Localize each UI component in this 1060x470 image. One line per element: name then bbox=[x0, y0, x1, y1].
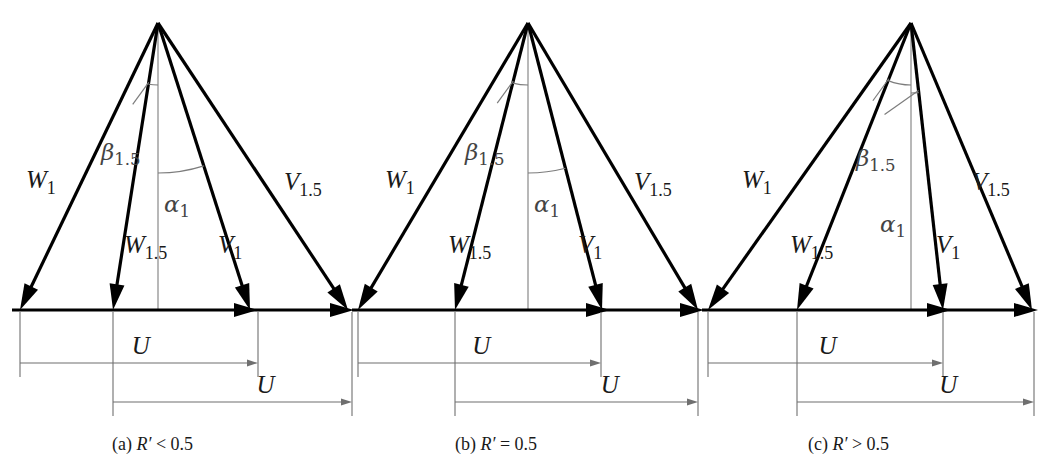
label-W15: W1.5 bbox=[448, 231, 491, 263]
caption-relation: = bbox=[495, 434, 514, 454]
label-V15: V1.5 bbox=[634, 168, 672, 200]
label-V1: V1 bbox=[578, 231, 602, 263]
vector-W1-arrowhead bbox=[20, 283, 38, 310]
caption-prefix: (c) bbox=[808, 434, 832, 454]
angle-arc-beta15 bbox=[888, 81, 911, 85]
baseline-arrowhead-end bbox=[330, 303, 354, 317]
panel-caption-b: (b) R′ = 0.5 bbox=[455, 434, 537, 455]
label-alpha1: α1 bbox=[880, 211, 906, 241]
angle-arc-beta15 bbox=[148, 84, 158, 85]
label-beta15: β1.5 bbox=[855, 145, 896, 175]
label-V15: V1.5 bbox=[972, 168, 1010, 200]
dim-label-top: U bbox=[818, 332, 838, 359]
caption-symbol: R′ bbox=[136, 434, 151, 454]
vector-V15 bbox=[158, 23, 339, 297]
dim-arrowhead-top bbox=[247, 360, 258, 367]
caption-relation: < bbox=[151, 434, 170, 454]
caption-relation: > bbox=[847, 434, 866, 454]
label-W1: W1 bbox=[26, 166, 56, 198]
caption-symbol: R′ bbox=[481, 434, 496, 454]
dim-arrowhead-top bbox=[590, 360, 601, 367]
angle-arc-alpha1 bbox=[158, 166, 204, 173]
panel-b: UUW1W1.5V1V1.5β1.5α1 bbox=[352, 23, 704, 416]
dim-arrowhead-bottom bbox=[1023, 399, 1034, 406]
dim-label-top: U bbox=[132, 332, 152, 359]
vector-W15-arrowhead bbox=[797, 283, 814, 310]
velocity-triangle-canvas: UUW1W1.5V1V1.5β1.5α1UUW1W1.5V1V1.5β1.5α1… bbox=[0, 0, 1060, 470]
vector-W1-arrowhead bbox=[708, 284, 729, 310]
panel-a: UUW1W1.5V1V1.5β1.5α1 bbox=[12, 23, 354, 416]
angle-leader-alpha1 bbox=[885, 91, 919, 115]
label-W15: W1.5 bbox=[124, 231, 167, 263]
label-W1: W1 bbox=[742, 166, 772, 198]
baseline-arrowhead-mid bbox=[234, 303, 258, 317]
label-W1: W1 bbox=[385, 166, 415, 198]
label-beta15: β1.5 bbox=[100, 139, 141, 169]
dim-label-bottom: U bbox=[256, 371, 276, 398]
caption-value: 0.5 bbox=[515, 434, 538, 454]
label-alpha1: α1 bbox=[164, 191, 190, 221]
label-V15: V1.5 bbox=[284, 168, 322, 200]
angle-arc-alpha1 bbox=[528, 168, 565, 173]
caption-value: 0.5 bbox=[867, 434, 890, 454]
dim-label-bottom: U bbox=[601, 371, 621, 398]
dim-arrowhead-bottom bbox=[341, 399, 352, 406]
baseline-arrowhead-mid bbox=[927, 303, 951, 317]
baseline-arrowhead-end bbox=[680, 303, 704, 317]
label-alpha1: α1 bbox=[534, 191, 560, 221]
angle-arc-beta15 bbox=[513, 83, 528, 85]
vector-W1-arrowhead bbox=[358, 284, 378, 310]
caption-prefix: (b) bbox=[455, 434, 481, 454]
vector-W15-arrowhead bbox=[110, 283, 125, 310]
vector-W15-arrowhead bbox=[454, 283, 469, 310]
dim-arrowhead-top bbox=[932, 360, 943, 367]
velocity-triangle-figure: UUW1W1.5V1V1.5β1.5α1UUW1W1.5V1V1.5β1.5α1… bbox=[0, 0, 1060, 470]
caption-prefix: (a) bbox=[112, 434, 136, 454]
baseline-arrowhead-mid bbox=[586, 303, 610, 317]
label-V1: V1 bbox=[218, 231, 242, 263]
vector-V15 bbox=[528, 23, 690, 296]
panel-c: UUW1W1.5V1V1.5β1.5α1 bbox=[702, 23, 1038, 416]
panel-caption-a: (a) R′ < 0.5 bbox=[112, 434, 193, 455]
panel-caption-c: (c) R′ > 0.5 bbox=[808, 434, 889, 455]
dim-label-bottom: U bbox=[939, 371, 959, 398]
dim-label-top: U bbox=[472, 332, 492, 359]
caption-value: 0.5 bbox=[171, 434, 194, 454]
vector-V15 bbox=[911, 23, 1026, 295]
caption-symbol: R′ bbox=[832, 434, 847, 454]
label-V1: V1 bbox=[936, 231, 960, 263]
dim-arrowhead-bottom bbox=[687, 399, 698, 406]
